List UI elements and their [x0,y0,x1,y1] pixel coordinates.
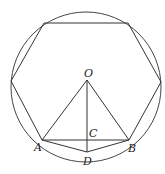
segment-BD [87,140,129,152]
label-B: B [127,142,136,155]
label-A: A [33,141,42,154]
geometry-diagram: O A B C D [0,0,165,174]
label-O: O [84,67,93,80]
segment-AD [42,140,87,152]
label-C: C [89,127,98,140]
segment-OA [42,80,87,140]
label-D: D [82,155,92,168]
